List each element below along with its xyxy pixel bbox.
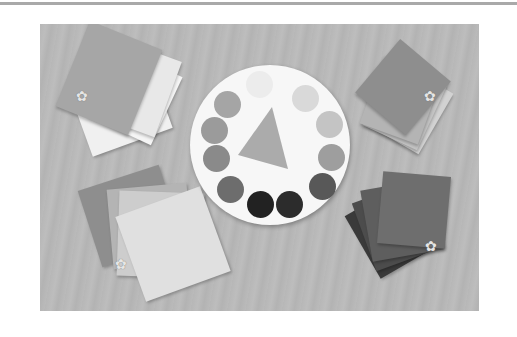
wheel-dot: [201, 117, 228, 144]
wheel-dot: [316, 111, 343, 138]
flower-icon: ✿: [424, 239, 438, 253]
card: [377, 171, 451, 249]
flower-icon: ✿: [423, 89, 437, 103]
center-triangle: [230, 105, 310, 177]
flower-icon: ✿: [75, 89, 89, 103]
top-divider: [0, 2, 517, 5]
wheel-dot: [309, 173, 336, 200]
flower-icon: ✿: [114, 257, 128, 271]
photo: ✿ ✿ ✿ ✿: [40, 24, 479, 311]
wheel-dot: [217, 176, 244, 203]
wheel-dot: [318, 144, 345, 171]
wheel-dot: [276, 191, 303, 218]
wheel-dot: [203, 145, 230, 172]
color-wheel: [190, 65, 350, 225]
wheel-dot: [247, 191, 274, 218]
wheel-dot: [246, 71, 273, 98]
